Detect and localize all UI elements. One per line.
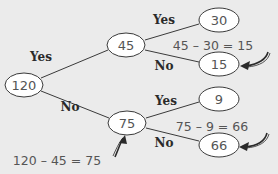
edge-label-45-no: No — [155, 59, 174, 73]
edge-label-45-yes: Yes — [152, 13, 175, 27]
node-66-value: 66 — [211, 138, 228, 153]
node-45-value: 45 — [118, 38, 135, 53]
node-15-value: 15 — [211, 57, 228, 72]
node-15: 15 — [199, 52, 239, 76]
node-75: 75 — [108, 111, 146, 135]
equation-75-minus-9: 75 – 9 = 66 — [176, 119, 248, 134]
node-30-value: 30 — [211, 13, 228, 28]
equation-120-minus-45: 120 – 45 = 75 — [13, 153, 101, 168]
node-9: 9 — [199, 87, 239, 111]
edge-labels: Yes No Yes No Yes No — [29, 13, 177, 150]
equation-45-minus-30: 45 – 30 = 15 — [173, 38, 253, 53]
arrow-to-15-icon — [240, 52, 270, 70]
arrow-to-66-icon — [239, 133, 269, 151]
node-9-value: 9 — [215, 92, 223, 107]
tree-diagram: Yes No Yes No Yes No 120 45 75 30 15 9 6… — [0, 0, 278, 174]
edge-label-75-yes: Yes — [154, 94, 177, 108]
edge-label-root-no: No — [61, 100, 80, 114]
edge-label-75-no: No — [155, 136, 174, 150]
node-root: 120 — [5, 73, 43, 97]
node-root-value: 120 — [12, 78, 37, 93]
node-30: 30 — [199, 8, 239, 32]
node-66: 66 — [199, 133, 239, 157]
node-75-value: 75 — [119, 116, 136, 131]
arrow-to-75-icon — [113, 135, 127, 157]
node-45: 45 — [107, 33, 145, 57]
edge-label-root-yes: Yes — [29, 50, 52, 64]
